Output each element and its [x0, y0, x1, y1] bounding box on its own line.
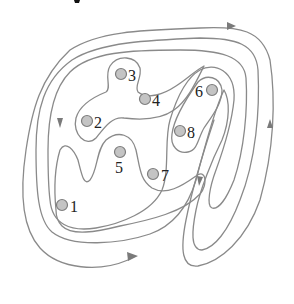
- node-label: 5: [115, 159, 123, 176]
- node-label: 2: [94, 114, 102, 131]
- arrow-down-icon: [197, 176, 203, 186]
- arrow-right-icon: [127, 252, 138, 261]
- node-5: 5: [115, 147, 126, 177]
- node-label: 1: [70, 198, 78, 215]
- node-label: 6: [195, 83, 203, 100]
- node-2: 2: [82, 114, 103, 131]
- arrow-down-icon: [57, 118, 63, 128]
- node-4: 4: [140, 92, 161, 109]
- node-label: 8: [187, 124, 195, 141]
- node-1: 1: [57, 198, 79, 215]
- node-label: 7: [161, 167, 169, 184]
- node-7: 7: [148, 167, 170, 184]
- contour-diagram: 1 2 3 4 5 6 7 8: [0, 0, 294, 304]
- node-3: 3: [116, 67, 137, 84]
- top-edge-mark: [74, 0, 80, 3]
- node-8: 8: [175, 124, 196, 141]
- node-label: 4: [152, 92, 160, 109]
- node-label: 3: [128, 67, 136, 84]
- contour-outer-path: [23, 28, 273, 268]
- node-6: 6: [195, 83, 218, 100]
